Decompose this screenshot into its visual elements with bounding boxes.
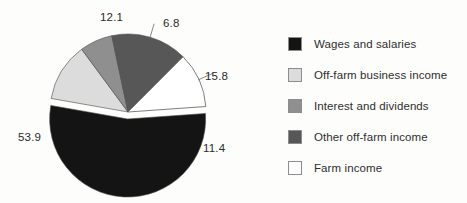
legend-item-label: Off-farm business income	[314, 69, 447, 81]
legend-item-other-off-farm-income: Other off-farm income	[288, 121, 463, 152]
legend-item-label: Interest and dividends	[314, 100, 429, 112]
legend-item-label: Farm income	[314, 162, 382, 174]
legend-item-interest-and-dividends: Interest and dividends	[288, 90, 463, 121]
legend-swatch-icon	[288, 161, 302, 175]
pie-svg	[0, 0, 250, 203]
legend-item-off-farm-business-income: Off-farm business income	[288, 59, 463, 90]
pie-slice-group	[50, 34, 206, 197]
legend-swatch-icon	[288, 99, 302, 113]
slice-leader-line	[150, 24, 154, 38]
slice-value-wages-and-salaries: 53.9	[18, 131, 41, 143]
pie-chart-figure: 53.9 12.1 6.8 15.8 11.4 Wages and salari…	[0, 0, 467, 203]
slice-value-off-farm-business-income: 12.1	[100, 11, 123, 23]
legend-swatch-icon	[288, 68, 302, 82]
slice-value-interest-and-dividends: 6.8	[163, 17, 180, 29]
pie-slice	[50, 105, 206, 197]
legend-swatch-icon	[288, 37, 302, 51]
slice-value-farm-income: 11.4	[203, 142, 225, 154]
legend-item-farm-income: Farm income	[288, 152, 463, 183]
legend-item-label: Wages and salaries	[314, 38, 416, 50]
legend-item-label: Other off-farm income	[314, 131, 428, 143]
legend-item-wages-and-salaries: Wages and salaries	[288, 28, 463, 59]
chart-legend: Wages and salaries Off-farm business inc…	[288, 28, 463, 183]
legend-swatch-icon	[288, 130, 302, 144]
pie-plot-area: 53.9 12.1 6.8 15.8 11.4	[0, 0, 250, 203]
slice-value-other-off-farm-income: 15.8	[205, 70, 228, 82]
